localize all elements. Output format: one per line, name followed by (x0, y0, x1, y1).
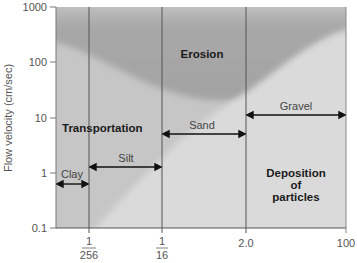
x-tick-1-256-den: 256 (80, 249, 98, 261)
y-tick-1: 1 (41, 167, 47, 179)
chart: 1000 100 10 1 0.1 Flow velocity (cm/sec)… (0, 0, 357, 263)
y-tick-1000: 1000 (23, 1, 47, 13)
y-tick-10: 10 (35, 112, 47, 124)
y-axis-label: Flow velocity (cm/sec) (2, 64, 14, 172)
deposition-label-line2: of (291, 179, 302, 191)
y-tick-0-1: 0.1 (32, 222, 47, 234)
transportation-label: Transportation (62, 122, 143, 134)
silt-label: Silt (118, 152, 133, 164)
deposition-label-line1: Deposition (266, 167, 325, 179)
x-tick-2: 2.0 (238, 237, 253, 249)
x-tick-1-16-num: 1 (159, 235, 165, 247)
y-ticks (50, 7, 56, 228)
x-tick-1-256-num: 1 (86, 235, 92, 247)
x-tick-1-16-den: 16 (156, 249, 168, 261)
x-tick-100: 100 (337, 237, 355, 249)
sand-label: Sand (189, 119, 215, 131)
clay-label: Clay (61, 168, 84, 180)
erosion-label: Erosion (181, 48, 224, 60)
gravel-label: Gravel (280, 100, 312, 112)
deposition-label-line3: particles (272, 191, 319, 203)
y-tick-100: 100 (29, 56, 47, 68)
